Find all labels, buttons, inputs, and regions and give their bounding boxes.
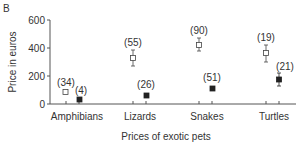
point-snakes-open	[197, 43, 202, 48]
y-axis	[47, 20, 50, 104]
n-labels: (34) (55) (90) (19) (4) (26) (51) (21)	[57, 25, 294, 96]
n-amphibians-filled: (4)	[75, 85, 87, 96]
point-turtles-filled	[277, 77, 282, 82]
x-label-turtles: Turtles	[259, 111, 289, 122]
n-turtles-filled: (21)	[276, 61, 294, 72]
x-axis-label: Prices of exotic pets	[121, 131, 210, 142]
point-amphibians-filled	[77, 97, 82, 102]
y-tick-600: 600	[28, 15, 45, 26]
point-turtles-open	[264, 51, 269, 56]
panel-label: B	[3, 3, 10, 14]
n-amphibians-open: (34)	[57, 77, 75, 88]
series-filled	[77, 73, 282, 102]
x-label-snakes: Snakes	[190, 111, 223, 122]
point-lizards-open	[131, 56, 136, 61]
x-label-lizards: Lizards	[124, 111, 156, 122]
y-tick-200: 200	[28, 71, 45, 82]
x-axis	[50, 101, 296, 104]
series-open	[63, 38, 269, 95]
n-turtles-open: (19)	[257, 32, 275, 43]
n-snakes-open: (90)	[190, 25, 208, 36]
point-snakes-filled	[210, 86, 215, 91]
n-lizards-open: (55)	[124, 37, 142, 48]
n-lizards-filled: (26)	[137, 79, 155, 90]
point-lizards-filled	[144, 93, 149, 98]
y-tick-labels: 600 400 200 0	[28, 15, 45, 110]
n-snakes-filled: (51)	[203, 72, 221, 83]
y-tick-400: 400	[28, 43, 45, 54]
chart: B 600 400 200 0 Price in euros Amphibian…	[0, 0, 306, 150]
y-tick-0: 0	[39, 99, 45, 110]
x-tick-labels: Amphibians Lizards Snakes Turtles	[51, 111, 289, 122]
point-amphibians-open	[63, 90, 68, 95]
x-label-amphibians: Amphibians	[51, 111, 103, 122]
y-axis-label: Price in euros	[7, 31, 18, 92]
